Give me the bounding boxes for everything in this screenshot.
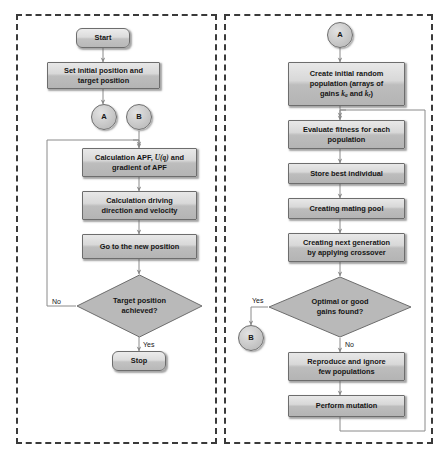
node-set-initial-position-label: Set initial position and target position: [64, 66, 143, 86]
connector-b-right: B: [238, 325, 264, 351]
node-store-best-individual-label: Store best individual: [310, 169, 383, 179]
decision-target-label: Target position achieved?: [107, 296, 172, 316]
next-gen-line1: Creating next generation: [303, 238, 390, 247]
edge-label-right-yes: Yes: [252, 297, 263, 304]
connector-a-left: A: [91, 104, 117, 130]
calc-driving-line1: Calculation driving: [106, 196, 173, 205]
next-gen-line2: by applying crossover: [307, 248, 385, 257]
decision-optimal-line2: gains found?: [317, 307, 363, 316]
node-creating-mating-pool-label: Creating mating pool: [310, 204, 384, 214]
calc-driving-line2: direction and velocity: [102, 206, 178, 215]
node-perform-mutation-label: Perform mutation: [316, 401, 378, 411]
node-calculation-driving: Calculation driving direction and veloci…: [82, 191, 197, 220]
connector-b-left-label: B: [136, 112, 141, 122]
node-creating-next-generation-label: Creating next generation by applying cro…: [303, 238, 390, 258]
calc-apf-math: U(q): [155, 153, 169, 162]
connector-a-right: A: [327, 22, 353, 48]
node-create-initial-population: Create initial random population (arrays…: [288, 62, 405, 106]
edge-label-left-no: No: [52, 298, 61, 305]
flowchart-figure: Start Set initial position and target po…: [0, 0, 448, 456]
create-pop-line3-pre: gains: [320, 89, 341, 98]
create-pop-line3-mid: and: [348, 89, 365, 98]
reproduce-line2: few populations: [318, 367, 374, 376]
evaluate-line2: population: [328, 135, 366, 144]
node-go-to-new-position-label: Go to the new position: [100, 242, 180, 252]
connector-b-right-label: B: [248, 333, 253, 343]
node-go-to-new-position: Go to the new position: [82, 234, 197, 259]
node-creating-next-generation: Creating next generation by applying cro…: [288, 233, 405, 262]
create-pop-line2: population (arrays of: [310, 79, 384, 88]
decision-optimal-gains-found: Optimal or good gains found?: [268, 276, 412, 338]
node-reproduce-and-ignore: Reproduce and ignore few populations: [288, 352, 405, 381]
create-pop-line1: Create initial random: [310, 69, 384, 78]
node-calculation-apf: Calculation APF, U(q) and gradient of AP…: [82, 148, 197, 177]
decision-optimal-label: Optimal or good gains found?: [305, 297, 374, 317]
node-reproduce-and-ignore-label: Reproduce and ignore few populations: [307, 357, 385, 377]
node-creating-mating-pool: Creating mating pool: [288, 198, 405, 219]
decision-target-line2: achieved?: [121, 306, 157, 315]
node-stop: Stop: [112, 351, 166, 371]
node-perform-mutation: Perform mutation: [288, 395, 405, 417]
calc-apf-prefix: Calculation APF,: [95, 153, 155, 162]
set-positions-line2: target position: [78, 76, 129, 85]
node-store-best-individual: Store best individual: [288, 163, 405, 184]
node-evaluate-fitness-label: Evaluate fitness for each population: [303, 125, 390, 145]
decision-optimal-line1: Optimal or good: [311, 297, 368, 306]
decision-target-position-achieved: Target position achieved?: [76, 274, 203, 338]
node-create-initial-population-label: Create initial random population (arrays…: [310, 69, 384, 98]
node-start-label: Start: [95, 33, 112, 43]
node-stop-label: Stop: [131, 356, 147, 366]
node-calculation-driving-label: Calculation driving direction and veloci…: [102, 196, 178, 216]
decision-target-line1: Target position: [113, 296, 166, 305]
calc-apf-suffix: and: [169, 153, 184, 162]
create-pop-line3-post: ): [371, 89, 373, 98]
edge-label-left-yes: Yes: [143, 341, 154, 348]
set-positions-line1: Set initial position and: [64, 66, 143, 75]
node-start: Start: [76, 28, 130, 48]
connector-a-right-label: A: [337, 30, 342, 40]
connector-b-left: B: [126, 104, 152, 130]
node-calculation-apf-label: Calculation APF, U(q) and gradient of AP…: [95, 153, 184, 173]
calc-apf-line2: gradient of APF: [112, 163, 167, 172]
reproduce-line1: Reproduce and ignore: [307, 357, 385, 366]
node-evaluate-fitness: Evaluate fitness for each population: [288, 120, 405, 149]
evaluate-line1: Evaluate fitness for each: [303, 125, 390, 134]
edge-label-right-no: No: [345, 341, 354, 348]
connector-a-left-label: A: [101, 112, 106, 122]
node-set-initial-position: Set initial position and target position: [47, 62, 160, 89]
